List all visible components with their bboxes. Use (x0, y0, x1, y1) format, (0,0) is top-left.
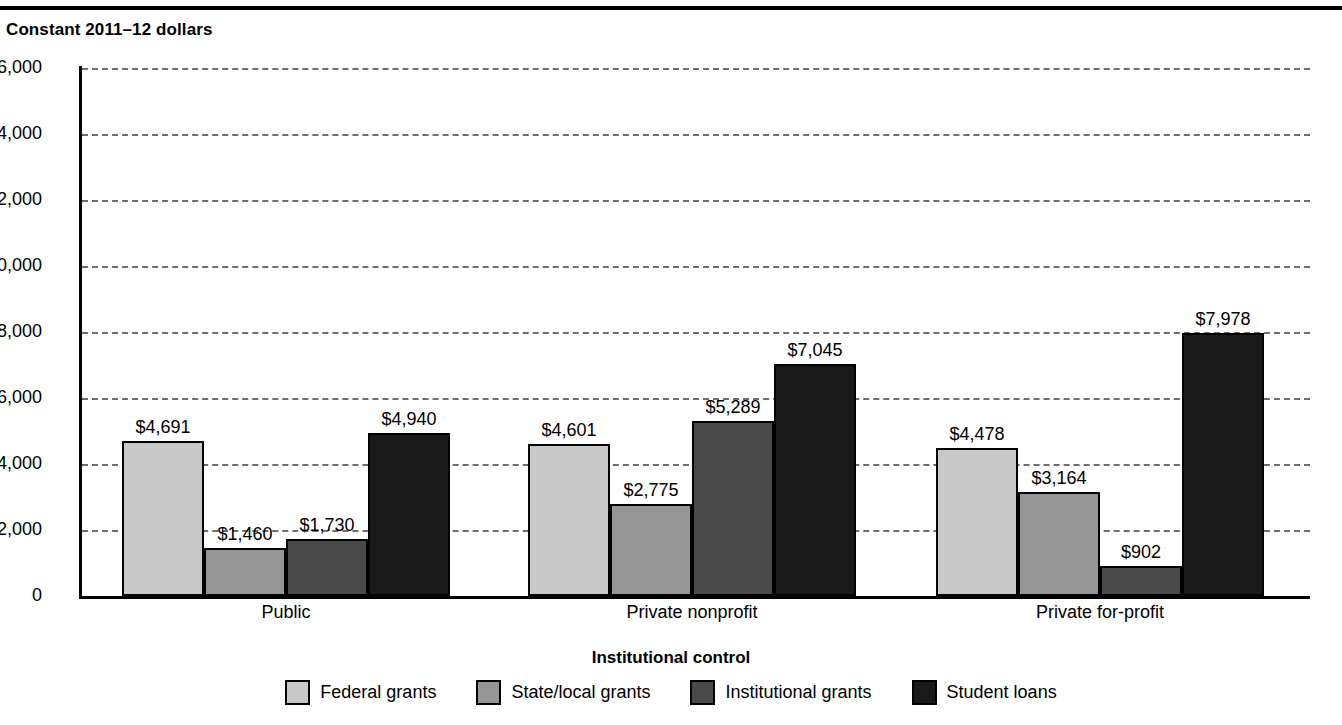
chart-unit-label: Constant 2011–12 dollars (6, 20, 213, 40)
bar[interactable]: $2,775 (610, 504, 692, 596)
x-axis-category-label: Public (122, 602, 450, 623)
bar[interactable]: $7,045 (774, 364, 856, 596)
gridline (82, 200, 1310, 202)
legend-label: Federal grants (320, 682, 436, 703)
legend-item[interactable]: Federal grants (285, 680, 436, 705)
legend-item[interactable]: Institutional grants (690, 680, 871, 705)
bar[interactable]: $4,478 (936, 448, 1018, 596)
bar-value-label: $902 (1121, 542, 1161, 563)
legend-label: Institutional grants (725, 682, 871, 703)
x-axis-line (79, 596, 1310, 599)
chart-legend: Federal grantsState/local grantsInstitut… (0, 680, 1342, 705)
bar-value-label: $7,045 (787, 340, 842, 361)
bar[interactable]: $4,940 (368, 433, 450, 596)
gridline (82, 398, 1310, 400)
bar-value-label: $3,164 (1031, 468, 1086, 489)
bar[interactable]: $1,730 (286, 539, 368, 596)
bar[interactable]: $4,601 (528, 444, 610, 596)
bar-value-label: $5,289 (705, 397, 760, 418)
legend-swatch-icon (476, 680, 501, 705)
bar-value-label: $4,691 (135, 417, 190, 438)
bar-value-label: $4,601 (541, 420, 596, 441)
y-axis-tick-label: 4,000 (0, 453, 42, 474)
bar-value-label: $4,478 (949, 424, 1004, 445)
legend-swatch-icon (912, 680, 937, 705)
y-axis-tick-label: 14,000 (0, 123, 42, 144)
bar[interactable]: $7,978 (1182, 333, 1264, 596)
bar[interactable]: $3,164 (1018, 492, 1100, 596)
bar-value-label: $1,730 (299, 515, 354, 536)
gridline (82, 266, 1310, 268)
y-axis-tick-label: 8,000 (0, 321, 42, 342)
plot-area: $16,00014,00012,00010,0008,0006,0004,000… (82, 68, 1310, 596)
x-axis-category-label: Private nonprofit (528, 602, 856, 623)
bar-value-label: $7,978 (1195, 309, 1250, 330)
y-axis-tick-label: 10,000 (0, 255, 42, 276)
legend-item[interactable]: Student loans (912, 680, 1057, 705)
y-axis-tick-label: $16,000 (0, 57, 42, 78)
legend-label: Student loans (947, 682, 1057, 703)
legend-swatch-icon (285, 680, 310, 705)
y-axis-tick-label: 2,000 (0, 519, 42, 540)
top-divider-rule (0, 6, 1342, 10)
bar[interactable]: $1,460 (204, 548, 286, 596)
bar-value-label: $1,460 (217, 524, 272, 545)
gridline (82, 68, 1310, 70)
y-axis-tick-label: 0 (0, 585, 42, 606)
bar[interactable]: $5,289 (692, 421, 774, 596)
bar[interactable]: $902 (1100, 566, 1182, 596)
gridline (82, 134, 1310, 136)
y-axis-tick-label: 12,000 (0, 189, 42, 210)
bar[interactable]: $4,691 (122, 441, 204, 596)
legend-item[interactable]: State/local grants (476, 680, 650, 705)
x-axis-category-label: Private for-profit (936, 602, 1264, 623)
bar-value-label: $2,775 (623, 480, 678, 501)
legend-swatch-icon (690, 680, 715, 705)
y-axis-tick-label: 6,000 (0, 387, 42, 408)
x-axis-title: Institutional control (0, 648, 1342, 668)
bar-value-label: $4,940 (381, 409, 436, 430)
legend-label: State/local grants (511, 682, 650, 703)
gridline (82, 332, 1310, 334)
